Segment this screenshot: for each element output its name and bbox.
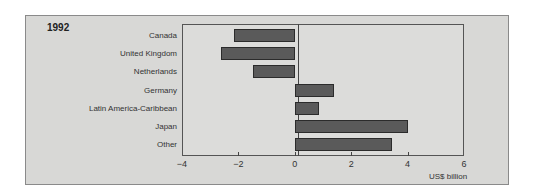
x-axis-label: US$ billion [429, 172, 467, 181]
category-label: Canada [149, 31, 177, 41]
category-label: Other [157, 140, 177, 150]
bar [295, 84, 334, 97]
chart-title: 1992 [47, 22, 69, 33]
category-label: Germany [144, 86, 177, 96]
x-tick [408, 152, 409, 156]
category-label: Japan [155, 122, 177, 132]
bar [295, 102, 319, 115]
category-label: United Kingdom [120, 49, 177, 59]
x-tick-label: 4 [405, 159, 410, 169]
x-tick [238, 152, 239, 156]
bar [295, 138, 392, 151]
bar [253, 65, 295, 78]
x-tick-label: 0 [292, 159, 297, 169]
x-tick [351, 152, 352, 156]
category-label: Latin America-Caribbean [89, 104, 177, 114]
x-tick-label: 6 [461, 159, 466, 169]
bar [295, 120, 408, 133]
x-tick-label: −4 [177, 159, 187, 169]
category-label: Netherlands [134, 67, 177, 77]
bar [221, 47, 294, 60]
bar [234, 29, 295, 42]
x-tick-label: 2 [349, 159, 354, 169]
x-tick [295, 152, 296, 156]
x-tick-label: −2 [233, 159, 243, 169]
